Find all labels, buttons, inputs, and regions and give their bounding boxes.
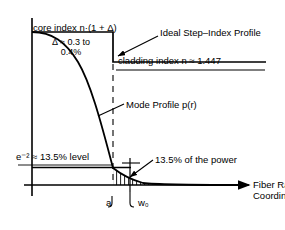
power-fraction-label: 13.5% of the power bbox=[155, 155, 237, 166]
delta-value-label: Δ ≈ 0.3 to 0.4% bbox=[52, 37, 90, 58]
cladding-index-label: cladding index n ≈ 1.447 bbox=[118, 56, 221, 67]
e-squared-level-label: e⁻² ≈ 13.5% level bbox=[16, 152, 89, 163]
delta-value-line2: 0.4% bbox=[52, 47, 90, 57]
fiber-index-profile-figure: core index n·(1 + Δ) Δ ≈ 0.3 to 0.4% Ide… bbox=[0, 0, 285, 230]
core-index-label: core index n·(1 + Δ) bbox=[33, 23, 117, 34]
mode-profile-leader bbox=[98, 104, 124, 116]
step-index-profile-label: Ideal Step–Index Profile bbox=[160, 28, 261, 39]
x-axis-label-line2: Coordinate bbox=[253, 191, 285, 202]
spot-size-label: w₀ bbox=[138, 198, 149, 209]
delta-value-line1: Δ ≈ 0.3 to bbox=[52, 37, 90, 47]
x-axis-label-line1: Fiber Radial bbox=[253, 179, 285, 190]
core-radius-label: a bbox=[106, 198, 111, 209]
step-profile-leader bbox=[118, 36, 158, 56]
mode-profile-label: Mode Profile p(r) bbox=[126, 100, 197, 111]
x-axis-label: Fiber Radial Coordinate bbox=[253, 180, 285, 202]
spot-size-leader bbox=[130, 192, 134, 207]
